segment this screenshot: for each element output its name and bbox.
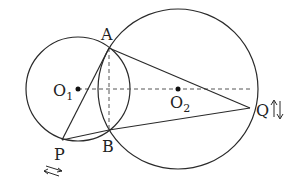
label-o1-main: O [53, 81, 66, 100]
geometry-diagram: A B P Q O1 O2 [0, 0, 297, 180]
label-o2-sub: 2 [183, 102, 190, 115]
label-b: B [102, 137, 114, 156]
label-a: A [100, 25, 113, 44]
label-o1-sub: 1 [66, 90, 73, 103]
label-p: P [54, 145, 65, 164]
point-o1-dot [76, 87, 81, 92]
point-o2-dot [176, 87, 181, 92]
label-q: Q [256, 101, 269, 120]
label-o2-main: O [170, 93, 183, 112]
arrows-left-right-icon [44, 166, 62, 176]
label-o1: O1 [53, 81, 73, 103]
arrows-up-down-icon [271, 100, 283, 119]
label-o2: O2 [170, 93, 190, 115]
